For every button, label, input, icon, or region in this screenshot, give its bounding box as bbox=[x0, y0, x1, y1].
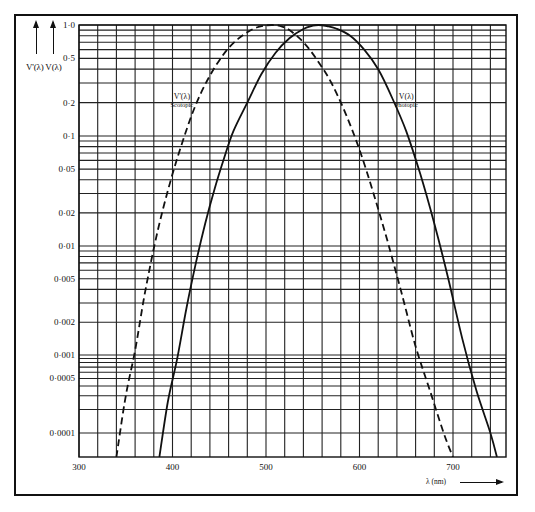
plot-border bbox=[79, 25, 506, 457]
x-tick-label: 500 bbox=[259, 462, 273, 472]
y-tick-label: 0·02 bbox=[59, 208, 76, 218]
grid bbox=[79, 25, 506, 457]
x-tick-label: 400 bbox=[166, 462, 180, 472]
plot-area bbox=[0, 0, 535, 512]
y-tick-label: 0·5 bbox=[63, 53, 75, 63]
photopic-subtitle: Photopic bbox=[384, 101, 428, 108]
scotopic-subtitle: Scotopic bbox=[160, 101, 204, 108]
y-tick-label: 0·005 bbox=[54, 274, 75, 284]
right-arrow-icon bbox=[460, 482, 502, 483]
y-tick-label: 0·2 bbox=[63, 98, 75, 108]
x-tick-label: 700 bbox=[446, 462, 460, 472]
luminosity-chart: V'(λ) V(λ) 1·00·50·20·10·050·020·010·005… bbox=[0, 0, 535, 512]
x-axis-label: λ (nm) bbox=[426, 477, 446, 486]
y-tick-label: 0·0005 bbox=[50, 373, 76, 383]
y-tick-label: 0·001 bbox=[54, 350, 75, 360]
y-tick-label: 1·0 bbox=[63, 20, 75, 30]
x-tick-label: 300 bbox=[72, 462, 86, 472]
y-tick-label: 0·1 bbox=[63, 131, 75, 141]
x-tick-label: 600 bbox=[353, 462, 367, 472]
scotopic-curve-label: V'(λ) Scotopic bbox=[160, 92, 204, 109]
scotopic-name: V'(λ) bbox=[160, 92, 204, 101]
y-tick-label: 0·05 bbox=[59, 164, 76, 174]
photopic-curve-label: V(λ) Photopic bbox=[384, 92, 428, 109]
y-tick-label: 0·01 bbox=[59, 241, 76, 251]
y-tick-label: 0·0001 bbox=[50, 428, 76, 438]
photopic-name: V(λ) bbox=[384, 92, 428, 101]
y-tick-label: 0·002 bbox=[54, 317, 75, 327]
